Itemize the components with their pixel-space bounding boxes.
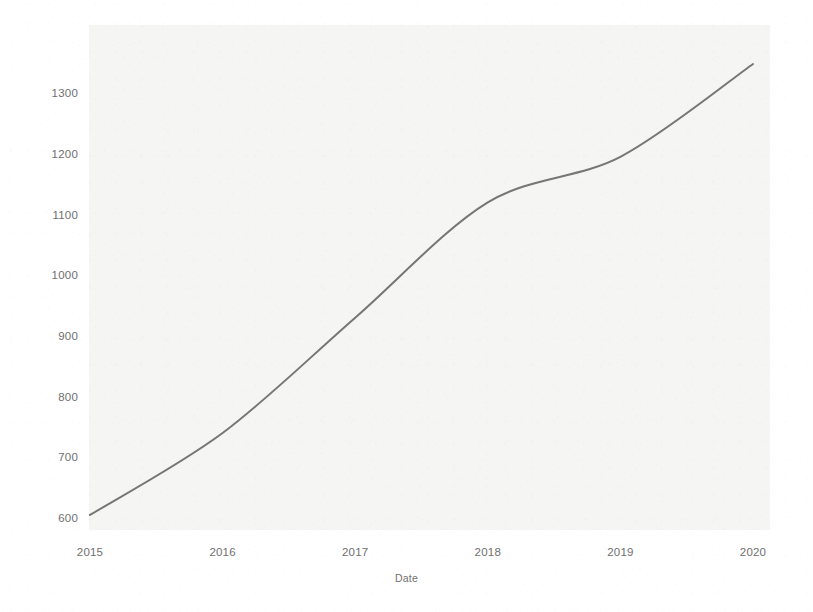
series-line-group bbox=[90, 64, 753, 515]
series-line-path bbox=[90, 64, 753, 515]
y-tick-label: 1000 bbox=[34, 269, 78, 281]
x-tick-label: 2018 bbox=[475, 546, 501, 558]
y-tick-label: 700 bbox=[34, 451, 78, 463]
x-tick-label: 2015 bbox=[77, 546, 103, 558]
y-tick-label: 1200 bbox=[34, 148, 78, 160]
x-tick-label: 2019 bbox=[607, 546, 633, 558]
x-tick-label: 2020 bbox=[740, 546, 766, 558]
x-tick-label: 2016 bbox=[209, 546, 235, 558]
y-tick-label: 800 bbox=[34, 391, 78, 403]
line-chart-svg bbox=[0, 0, 813, 612]
y-tick-label: 1100 bbox=[34, 209, 78, 221]
y-tick-label: 900 bbox=[34, 330, 78, 342]
chart-figure: 1300120011001000900800700600 20152016201… bbox=[0, 0, 813, 612]
x-tick-label: 2017 bbox=[342, 546, 368, 558]
x-axis-title: Date bbox=[0, 572, 813, 584]
y-tick-label: 600 bbox=[34, 512, 78, 524]
y-tick-label: 1300 bbox=[34, 87, 78, 99]
